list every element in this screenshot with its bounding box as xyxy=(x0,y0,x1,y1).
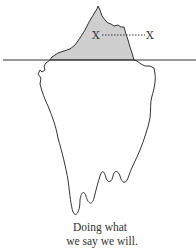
iceberg-diagram: X X Doing what we say we will. xyxy=(0,0,196,249)
left-x-marker: X xyxy=(92,29,100,42)
caption-line-1: Doing what xyxy=(2,220,196,234)
right-x-marker: X xyxy=(146,29,154,42)
iceberg-submerged xyxy=(38,60,155,214)
caption-line-2: we say we will. xyxy=(4,234,196,248)
iceberg-illustration: X X xyxy=(0,0,196,249)
